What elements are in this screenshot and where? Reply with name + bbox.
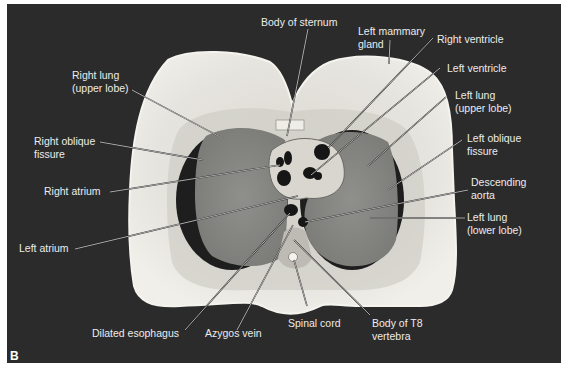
- label-line: fissure: [467, 145, 521, 158]
- panel-letter: B: [10, 349, 19, 363]
- label-azygos-vein: Azygos vein: [205, 327, 262, 340]
- label-line: Left mammary: [358, 25, 425, 38]
- label-line: Right lung: [72, 69, 129, 82]
- label-line: (upper lobe): [72, 82, 129, 95]
- label-line: (lower lobe): [467, 224, 522, 237]
- label-dilated-esophagus: Dilated esophagus: [92, 327, 179, 340]
- label-line: Right atrium: [44, 185, 101, 198]
- right-atrium-2: [284, 151, 292, 165]
- label-right-lung-upper-lobe: Right lung (upper lobe): [72, 69, 129, 94]
- right-ventricle: [314, 144, 330, 160]
- label-line: Left ventricle: [447, 62, 507, 75]
- label-line: Left oblique: [467, 132, 521, 145]
- label-right-oblique-fissure: Right oblique fissure: [34, 135, 95, 160]
- label-line: Body of sternum: [261, 16, 337, 29]
- label-spinal-cord: Spinal cord: [288, 317, 341, 330]
- label-line: Left atrium: [19, 242, 69, 255]
- label-body-of-sternum: Body of sternum: [261, 16, 337, 29]
- label-left-lung-upper-lobe: Left lung (upper lobe): [455, 89, 512, 114]
- label-line: Right oblique: [34, 135, 95, 148]
- spinal-cord: [289, 253, 298, 262]
- label-line: Left lung: [455, 89, 512, 102]
- label-right-atrium: Right atrium: [44, 185, 101, 198]
- right-atrium: [277, 170, 291, 186]
- label-descending-aorta: Descending aorta: [471, 176, 526, 201]
- esophagus: [284, 204, 298, 216]
- label-line: Azygos vein: [205, 327, 262, 340]
- label-left-atrium: Left atrium: [19, 242, 69, 255]
- label-left-mammary-gland: Left mammary gland: [358, 25, 425, 50]
- label-line: Body of T8: [372, 317, 423, 330]
- label-line: Right ventricle: [437, 33, 504, 46]
- label-right-ventricle: Right ventricle: [437, 33, 504, 46]
- label-line: Dilated esophagus: [92, 327, 179, 340]
- label-line: Spinal cord: [288, 317, 341, 330]
- label-left-oblique-fissure: Left oblique fissure: [467, 132, 521, 157]
- label-line: Left lung: [467, 211, 522, 224]
- label-left-ventricle: Left ventricle: [447, 62, 507, 75]
- label-line: aorta: [471, 189, 526, 202]
- label-line: gland: [358, 38, 425, 51]
- label-line: fissure: [34, 148, 95, 161]
- left-ventricle-2: [314, 172, 322, 180]
- label-left-lung-lower-lobe: Left lung (lower lobe): [467, 211, 522, 236]
- label-body-of-t8-vertebra: Body of T8 vertebra: [372, 317, 423, 342]
- label-line: (upper lobe): [455, 102, 512, 115]
- label-line: Descending: [471, 176, 526, 189]
- label-line: vertebra: [372, 330, 423, 343]
